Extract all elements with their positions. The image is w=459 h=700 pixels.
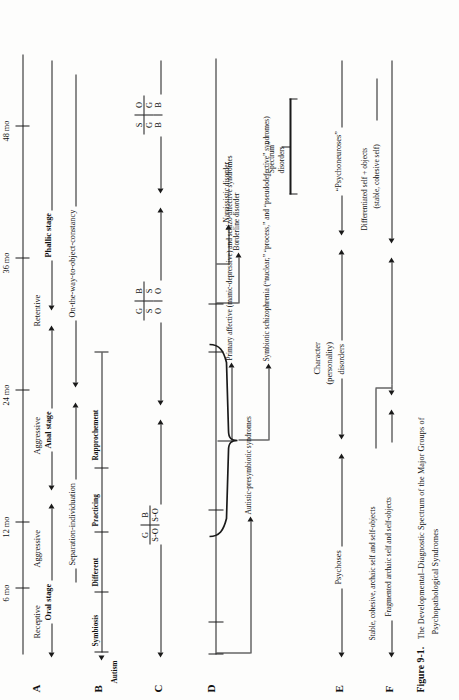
row-f-arrow-2-right	[388, 257, 394, 262]
figure-caption-line2: Psychopathological Syndromes	[430, 528, 439, 634]
figure-number: Figure 9-1.	[414, 646, 425, 692]
row-a-qualifier-aggressive-anal: Aggressive	[33, 417, 42, 454]
cell3-b-right: B	[153, 95, 162, 114]
row-label-e: E	[333, 685, 345, 692]
axis-tick-36mo	[15, 257, 29, 258]
cell3-g-right: G	[144, 95, 153, 114]
row-d-arrow-borderline	[235, 252, 241, 257]
row-f-label-stable: Stable, cohesive, archaic self and self-…	[368, 506, 376, 640]
row-a-qualifier-aggressive-oral: Aggressive	[33, 530, 42, 567]
row-c-arrow-2-right	[157, 207, 163, 212]
cell2-o-left: O	[153, 300, 162, 320]
axis-tick-label-6mo: 6 mo	[2, 584, 11, 601]
row-b-tick-rapprochement-end	[94, 351, 108, 352]
object-constancy-arrow-left	[72, 382, 78, 387]
row-f-rule-2	[391, 414, 392, 442]
row-b-phase-rapprochement: Rapprochement	[91, 409, 99, 460]
row-f-arrow-2-left	[388, 390, 394, 395]
axis-tick-24mo	[15, 389, 29, 390]
row-label-b: B	[92, 685, 104, 692]
row-b-tick-start	[94, 651, 108, 652]
row-f-rule-4	[391, 262, 392, 384]
spectrum-label-line1: “Spectrum”	[267, 141, 275, 176]
cell2-b: B	[134, 281, 144, 300]
cell2-s-right: S	[144, 281, 153, 300]
axis-tick-label-12mo: 12 mo	[2, 516, 11, 537]
row-d-label-borderline: Borderline disorder	[232, 192, 240, 250]
axis-tick-label-24mo: 24 mo	[2, 384, 11, 405]
row-d-leader-autistic-v	[216, 652, 250, 653]
row-d-label-narcissistic: Narcissistic disorder	[222, 161, 230, 222]
oral-stage-arrow-right	[48, 503, 54, 508]
row-a-stage-oral: Oral stage	[44, 580, 53, 623]
row-label-a: A	[30, 684, 42, 692]
row-e-label-character-2: (personality)	[325, 338, 334, 388]
cell3-o: O	[134, 95, 144, 114]
row-f-rule-stable-lead	[375, 388, 376, 448]
axis-tick-label-48mo: 48 mo	[2, 120, 11, 141]
anal-stage-arrow-left	[48, 485, 54, 490]
cell2-s-left: S	[144, 300, 153, 320]
row-d-leader-symbiotic-v	[238, 439, 268, 440]
row-d-tick-1	[208, 621, 223, 622]
phallic-stage-rule	[51, 60, 52, 305]
cell1-b: B	[140, 505, 150, 524]
row-a-qualifier-receptive: Receptive	[33, 605, 42, 638]
row-d-leader-autistic-h	[250, 521, 251, 653]
row-c-arrow-1-right	[157, 419, 163, 424]
row-b-object-constancy: On-the-way-to-object-constancy	[68, 206, 77, 320]
row-f-arrow-1-right	[388, 409, 394, 414]
row-c-rule-4	[160, 212, 161, 280]
spectrum-bracket-right	[289, 98, 297, 99]
row-e-label-character-1: Character	[313, 338, 322, 378]
anal-stage-arrow-right	[48, 325, 54, 330]
row-c-cell-2: G B S S O O	[134, 281, 162, 320]
row-b-phase-practicing: Practicing	[91, 494, 99, 526]
row-f-arrow-3-left	[388, 238, 394, 243]
separation-individuation-arrow	[72, 402, 78, 407]
row-d-leader-affective-h	[231, 367, 232, 441]
row-e-arrow-character-left	[338, 434, 344, 439]
row-label-f: F	[383, 685, 395, 692]
row-b-phase-baseline	[101, 352, 102, 652]
oral-stage-arrow-left	[48, 652, 54, 657]
row-e-arrow-character-right	[338, 249, 344, 254]
row-c-rule-1	[160, 544, 161, 652]
row-e-label-character-3: disorders	[337, 340, 346, 378]
row-d-arrow-affective	[228, 362, 234, 367]
cell2-g: G	[134, 300, 144, 320]
time-axis-line	[22, 54, 23, 654]
cell1-so-left: S-O	[150, 524, 159, 544]
row-c-arrow-3-left	[157, 188, 163, 193]
row-c-cell-1: G B S-O S-O	[140, 505, 159, 544]
row-f-rule-stable-drop	[375, 387, 391, 388]
row-f-label-differentiated-2: (stable, cohesive self)	[372, 144, 380, 208]
row-label-d: D	[205, 684, 217, 692]
row-d-leader-borderline-h	[238, 257, 239, 303]
row-d-leader-narcissistic-v	[216, 263, 228, 264]
row-a-qualifier-retentive: Retentive	[33, 294, 42, 326]
spectrum-label-line2: disorders	[277, 146, 285, 173]
cell1-g: G	[140, 524, 150, 544]
row-e-arrow-psychoses-left	[338, 652, 344, 657]
row-b-tick-symbiosis-end	[94, 591, 108, 592]
axis-tick-48mo	[15, 125, 29, 126]
spectrum-bracket-left	[289, 193, 297, 194]
figure-page: A 6 mo 12 mo 24 mo 36 mo 48 mo Receptive…	[0, 0, 459, 700]
row-c-rule-3	[160, 322, 161, 400]
figure-caption-text-1: The Developmental–Diagnostic Spectrum of…	[416, 417, 425, 639]
row-a-stage-phallic: Phallic stage	[44, 210, 53, 260]
autism-arrow	[98, 655, 104, 660]
row-e-arrow-psychoses-right	[338, 453, 344, 458]
row-b-phase-different: Different	[91, 557, 99, 586]
row-b-tick-different-end	[94, 531, 108, 532]
row-b-separation-individuation: Separation-individuation	[68, 480, 77, 569]
rotated-figure-container: A 6 mo 12 mo 24 mo 36 mo 48 mo Receptive…	[0, 0, 459, 700]
row-d-leader-borderline-v	[216, 302, 238, 303]
axis-tick-6mo	[15, 587, 29, 588]
row-f-arrow-1-left	[388, 652, 394, 657]
row-b-phase-symbiosis: Symbiosis	[91, 614, 99, 646]
row-e-arrow-psychoneuroses-left	[338, 230, 344, 235]
row-d-arrow-narcissistic	[225, 224, 231, 229]
row-a-stage-anal: Anal stage	[44, 408, 53, 451]
